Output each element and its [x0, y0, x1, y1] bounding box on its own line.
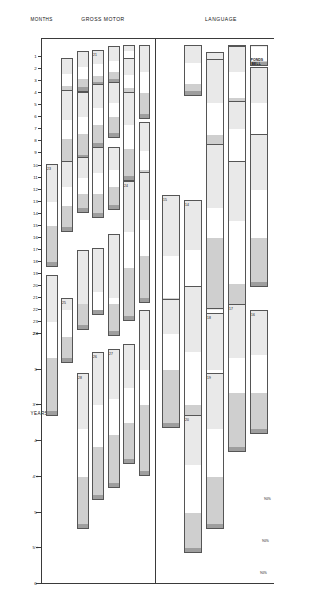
bar-25th-fill [251, 135, 268, 189]
bar-25th-fill [207, 374, 224, 430]
bar-90th-fill [124, 316, 134, 320]
milestone-item-number: 18 [207, 316, 215, 320]
bar-25th-fill [93, 249, 103, 292]
bar-25th-fill [109, 47, 119, 60]
milestone-bar[interactable]: RESPONDS TO BELL [250, 45, 269, 66]
milestone-label: RESPONDS TO BELL [250, 52, 262, 65]
milestone-bar[interactable]: COMPREHENDS PREPOSITIONS of 4 [228, 304, 247, 452]
bar-75th-fill [207, 477, 224, 530]
bar-25th-fill [93, 353, 103, 405]
milestone-bar[interactable]: BALANCE ON 1 FOOT 1 SECOND [108, 234, 120, 336]
bar-25th-fill [207, 145, 224, 208]
bar-25th-fill [229, 305, 246, 357]
bar-25th-fill [93, 85, 103, 108]
bar-25th-fill [78, 93, 88, 117]
axis-tick-label: 4 [29, 90, 43, 95]
bar-90th-fill [93, 310, 103, 314]
bar-90th-fill [185, 91, 202, 95]
milestone-bar[interactable]: BACKWARD HEEL-TOE 2 of 3 [77, 373, 89, 530]
axis-tick-label: 21 [29, 295, 43, 300]
axis-tick-label: 22 [29, 307, 43, 312]
milestone-bar[interactable]: STOOPS & RECOVERS [92, 147, 104, 218]
bar-25th-fill [109, 83, 119, 103]
milestone-bar[interactable]: STO HEAD UP 90° [108, 46, 120, 83]
milestone-bar[interactable]: SQUEALS [184, 45, 203, 96]
milestone-item-number: 23 [47, 167, 55, 171]
milestone-bar[interactable]: HOPS ON 1 FOOT [123, 344, 135, 464]
milestone-bar[interactable]: WALKS HOLDING ON FURNITURE [123, 92, 135, 182]
milestone-bar[interactable]: NAMES 1 PICTURE [184, 200, 203, 300]
milestone-bar[interactable]: COMBINES 2 DIFFERENT WORDS [228, 161, 247, 327]
bar-75th-fill [124, 423, 134, 464]
axis-tick-label: 13 [29, 198, 43, 203]
bar-25th-fill [62, 162, 72, 187]
section-divider [155, 38, 156, 584]
milestone-bar[interactable]: SITS WITHOUT SUPPORT [108, 82, 120, 138]
milestone-bar[interactable]: BEAR SOME WEIGHT ON LEGS [139, 45, 151, 119]
percentile-callout: 90% [260, 571, 272, 575]
bar-90th-fill [140, 298, 150, 302]
milestone-item-number: 17 [229, 307, 237, 311]
milestone-bar[interactable]: STANDS ALONE WELL [108, 147, 120, 211]
bar-90th-fill [109, 483, 119, 487]
bar-75th-fill [140, 405, 150, 475]
bar-75th-fill [109, 435, 119, 488]
milestone-bar[interactable]: PULLS SELF TO STAND [77, 92, 89, 159]
axis-tick-label: 6 [29, 114, 43, 119]
milestone-bar[interactable]: USES 1ST & LAST NAME [162, 299, 181, 428]
milestone-bar[interactable]: WALKS UP STEPS [46, 164, 58, 267]
bar-90th-fill [140, 471, 150, 475]
milestone-bar[interactable]: BALANCE ON 1 FOOT 10 SECONDS of 3 [139, 310, 151, 476]
milestone-bar[interactable]: GETS TO SITTING [61, 90, 73, 172]
axis-y-right [42, 583, 274, 584]
milestone-bar[interactable]: STANDS HOLDING ON [92, 84, 104, 148]
milestone-bar[interactable]: THROWS BALL OVERHAND [123, 181, 135, 321]
milestone-bar[interactable]: KICKS BALL FORWARD [139, 172, 151, 303]
bar-25th-fill [207, 314, 224, 370]
axis-tick-label: 15 [29, 222, 43, 227]
bar-25th-fill [124, 93, 134, 125]
milestone-bar[interactable]: HEEL TO TOE WALK 2 of 3 [92, 352, 104, 500]
milestone-bar[interactable]: WALKS BACKWARDS [61, 161, 73, 232]
bar-90th-fill [62, 358, 72, 362]
axis-tick-label: 10 [29, 162, 43, 167]
milestone-item-number: 27 [109, 352, 117, 356]
milestone-bar[interactable]: 3 WORDS OTHER THAN MAMA, DADA [250, 134, 269, 287]
bar-90th-fill [109, 331, 119, 335]
axis-tick-label: 9 [29, 150, 43, 155]
bar-90th-fill [78, 208, 88, 212]
bar-25th-fill [140, 123, 150, 151]
milestone-bar[interactable]: WALKS WELL [77, 157, 89, 213]
milestone-bar[interactable]: PEDALS TRICYCLE [77, 250, 89, 330]
bar-25th-fill [140, 46, 150, 72]
bar-25th-fill [78, 158, 88, 178]
milestone-item-number: 20 [185, 418, 193, 422]
milestone-bar[interactable]: COMPREHENDS COLD, TIRED, HUNGRY of 3 [250, 310, 269, 435]
bar-25th-fill [229, 47, 246, 72]
axis-tick-label: 19 [29, 270, 43, 275]
milestone-bar[interactable]: COMPOSITION of 3 [184, 415, 203, 553]
bar-25th-fill [47, 276, 57, 322]
milestone-bar[interactable]: DEFINES WORDS of 9 [206, 373, 225, 530]
axis-tick-label: 7 [29, 126, 43, 131]
milestone-bar[interactable]: JUMPS IN PLACE [92, 248, 104, 315]
milestone-item-number: 25 [62, 301, 70, 305]
bar-90th-fill [78, 325, 88, 329]
milestone-bar[interactable]: CATCHES BOUNCED BALL 2 of 3 [108, 349, 120, 487]
bar-90th-fill [185, 548, 202, 552]
milestone-bar[interactable]: BROAD JUMP [61, 298, 73, 363]
axis-y-left [42, 38, 274, 39]
milestone-bar[interactable]: POINTS TO 1 NAMED BODY PART [206, 144, 225, 321]
axis-tick-label: 5½ [28, 545, 44, 550]
milestone-item-number: 28 [78, 376, 86, 380]
milestone-bar[interactable]: BALANCE ON 1 FOOT 5 SECONDS of 3 [46, 275, 58, 416]
axis-tick-label: 1 [29, 54, 43, 59]
bar-25th-fill [109, 350, 119, 399]
bar-90th-fill [47, 262, 57, 266]
bar-75th-fill [185, 513, 202, 554]
bar-90th-fill [124, 176, 134, 180]
bar-75th-fill [251, 393, 268, 434]
milestone-bar[interactable]: SIT HEAD STEADY [77, 51, 89, 92]
bar-75th-fill [163, 370, 180, 429]
milestone-bar[interactable]: FOLLOWS DIRECTIONS 2 of 3 [162, 195, 181, 312]
